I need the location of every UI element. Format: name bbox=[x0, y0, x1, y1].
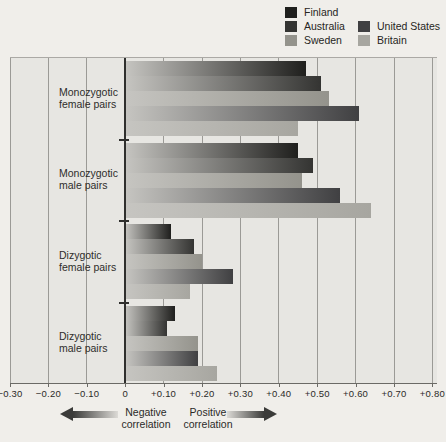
x-axis-tick bbox=[10, 383, 11, 387]
x-axis-tick-label: +0.20 bbox=[182, 388, 222, 399]
positive-arrow-icon bbox=[227, 407, 277, 421]
category-label-dizygotic-male-pairs: Dizygoticmale pairs bbox=[59, 330, 107, 354]
bar-finland bbox=[125, 306, 175, 321]
bar-united-states bbox=[125, 106, 359, 121]
x-axis-tick bbox=[317, 383, 318, 387]
x-axis-tick bbox=[202, 383, 203, 387]
negative-arrow-icon bbox=[60, 407, 118, 421]
x-axis-tick-label: −0.10 bbox=[67, 388, 107, 399]
bar-sweden bbox=[125, 91, 329, 106]
legend-item-label: Finland bbox=[304, 6, 338, 18]
bar-finland bbox=[125, 143, 298, 158]
gridline bbox=[394, 58, 395, 383]
negative-correlation-label: Negative correlation bbox=[112, 406, 180, 430]
bar-united-states bbox=[125, 351, 198, 366]
bar-united-states bbox=[125, 188, 340, 203]
x-axis-tick-label: −0.30 bbox=[0, 388, 30, 399]
x-axis-tick-label: +0.50 bbox=[297, 388, 337, 399]
legend-item-australia: Australia bbox=[285, 20, 345, 32]
legend-swatch-icon bbox=[285, 7, 297, 18]
bar-australia bbox=[125, 76, 321, 91]
bar-britain bbox=[125, 366, 217, 381]
bar-britain bbox=[125, 121, 298, 136]
x-axis-tick-label: +0.60 bbox=[336, 388, 376, 399]
bar-sweden bbox=[125, 173, 302, 188]
bar-australia bbox=[125, 158, 313, 173]
legend-swatch-icon bbox=[285, 35, 297, 46]
legend-item-label: Sweden bbox=[304, 34, 342, 46]
legend-swatch-icon bbox=[358, 21, 370, 32]
legend-item-finland: Finland bbox=[285, 6, 338, 18]
bar-australia bbox=[125, 239, 194, 254]
x-axis-tick bbox=[432, 383, 433, 387]
category-label-monozygotic-female-pairs: Monozygoticfemale pairs bbox=[59, 86, 118, 110]
bar-finland bbox=[125, 61, 305, 76]
legend-item-label: Britain bbox=[377, 34, 407, 46]
legend-item-united-states: United States bbox=[358, 20, 440, 32]
bar-sweden bbox=[125, 254, 202, 269]
x-axis-tick bbox=[48, 383, 49, 387]
x-axis-tick bbox=[240, 383, 241, 387]
group-divider-tick bbox=[119, 139, 129, 141]
x-axis-tick-label: 0 bbox=[105, 388, 145, 399]
x-axis-tick-label: +0.70 bbox=[374, 388, 414, 399]
x-axis-tick bbox=[125, 383, 126, 387]
bar-united-states bbox=[125, 269, 233, 284]
category-label-monozygotic-male-pairs: Monozygoticmale pairs bbox=[59, 167, 118, 191]
category-label-dizygotic-female-pairs: Dizygoticfemale pairs bbox=[59, 249, 116, 273]
x-axis-tick-label: +0.10 bbox=[144, 388, 184, 399]
bar-sweden bbox=[125, 336, 198, 351]
x-axis-tick bbox=[279, 383, 280, 387]
group-divider-tick bbox=[119, 220, 129, 222]
x-axis-tick bbox=[356, 383, 357, 387]
legend-swatch-icon bbox=[285, 21, 297, 32]
x-axis-tick-label: −0.20 bbox=[28, 388, 68, 399]
legend-item-label: United States bbox=[377, 20, 440, 32]
bar-finland bbox=[125, 224, 171, 239]
x-axis-tick-label: +0.40 bbox=[259, 388, 299, 399]
chart-area: Monozygoticfemale pairsMonozygoticmale p… bbox=[10, 57, 437, 383]
gridline bbox=[432, 58, 433, 383]
bar-australia bbox=[125, 321, 167, 336]
gridline bbox=[48, 58, 49, 383]
legend-item-sweden: Sweden bbox=[285, 34, 342, 46]
bar-britain bbox=[125, 284, 190, 299]
legend-item-label: Australia bbox=[304, 20, 345, 32]
x-axis-tick-label: +0.80 bbox=[412, 388, 446, 399]
gridline bbox=[10, 58, 11, 383]
bar-britain bbox=[125, 203, 371, 218]
legend-item-britain: Britain bbox=[358, 34, 407, 46]
x-axis-tick bbox=[87, 383, 88, 387]
group-divider-tick bbox=[119, 302, 129, 304]
x-axis-tick bbox=[164, 383, 165, 387]
x-axis-tick-label: +0.30 bbox=[220, 388, 260, 399]
legend-swatch-icon bbox=[358, 35, 370, 46]
x-axis-line bbox=[10, 383, 437, 384]
x-axis-tick bbox=[394, 383, 395, 387]
